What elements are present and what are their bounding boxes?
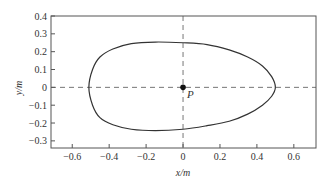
y-tick-label: 0.4 — [35, 11, 48, 22]
x-tick-label: 0.2 — [214, 151, 227, 162]
y-tick-label: −0.2 — [29, 118, 47, 129]
chart: −0.6−0.4−0.200.20.40.6 0.40.30.20.10−0.1… — [0, 0, 328, 184]
x-tick-label: 0.4 — [251, 151, 264, 162]
x-axis-ticks: −0.6−0.4−0.200.20.40.6 — [63, 144, 300, 162]
point-p-marker — [180, 85, 186, 91]
x-axis-label: x/m — [175, 167, 190, 178]
point-p-label: P — [186, 88, 194, 100]
x-tick-label: −0.2 — [137, 151, 155, 162]
y-axis-label: y/m — [13, 81, 24, 96]
x-tick-label: −0.4 — [100, 151, 118, 162]
plot-frame — [51, 16, 316, 148]
x-tick-label: −0.6 — [63, 151, 81, 162]
y-tick-label: −0.3 — [29, 135, 47, 146]
y-tick-label: −0.1 — [29, 100, 47, 111]
x-tick-label: 0 — [181, 151, 186, 162]
reference-lines — [51, 16, 316, 148]
y-tick-label: 0.2 — [35, 46, 48, 57]
y-tick-label: 0.1 — [35, 64, 48, 75]
x-tick-label: 0.6 — [288, 151, 301, 162]
y-tick-label: 0.3 — [35, 28, 48, 39]
y-tick-label: 0 — [42, 82, 47, 93]
